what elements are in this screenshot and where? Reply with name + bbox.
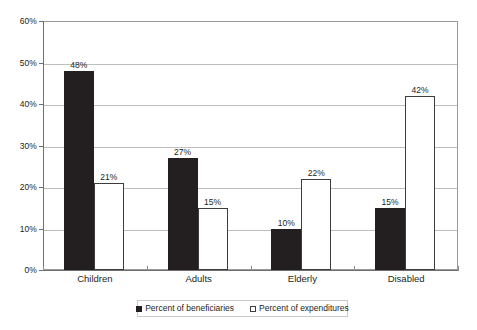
legend-item-expenditures: Percent of expenditures bbox=[250, 304, 349, 313]
legend-label-beneficiaries: Percent of beneficiaries bbox=[145, 304, 234, 313]
x-axis-tick bbox=[458, 266, 459, 271]
gridline bbox=[44, 64, 457, 65]
bar-value-label: 42% bbox=[412, 86, 429, 95]
bar-adults-series-1: 15% bbox=[198, 208, 228, 270]
y-axis-label: 40% bbox=[20, 100, 37, 109]
x-axis-tick bbox=[354, 266, 355, 271]
bar-elderly-series-1: 22% bbox=[301, 179, 331, 270]
gridline bbox=[44, 105, 457, 106]
bar-disabled-series-1: 42% bbox=[405, 96, 435, 270]
legend-item-beneficiaries: Percent of beneficiaries bbox=[136, 304, 234, 313]
bar-value-label: 22% bbox=[308, 169, 325, 178]
x-axis-label-children: Children bbox=[77, 274, 112, 284]
x-axis-label-adults: Adults bbox=[185, 274, 211, 284]
legend-swatch-filled-square-icon bbox=[136, 306, 142, 312]
bar-elderly-series-0: 10% bbox=[271, 229, 301, 271]
gridline bbox=[44, 147, 457, 148]
x-axis-label-disabled: Disabled bbox=[388, 274, 425, 284]
y-axis-label: 20% bbox=[20, 183, 37, 192]
x-axis-label-elderly: Elderly bbox=[288, 274, 317, 284]
y-axis-tick bbox=[39, 229, 43, 230]
bar-children-series-0: 48% bbox=[64, 71, 94, 270]
bar-value-label: 48% bbox=[70, 61, 87, 70]
x-axis-tick bbox=[43, 266, 44, 271]
bar-value-label: 15% bbox=[204, 198, 221, 207]
y-axis-label: 50% bbox=[20, 58, 37, 67]
bar-adults-series-0: 27% bbox=[168, 158, 198, 270]
y-axis-label: 0% bbox=[25, 266, 38, 275]
y-axis-tick bbox=[39, 104, 43, 105]
y-axis-tick bbox=[39, 63, 43, 64]
y-axis-tick bbox=[39, 187, 43, 188]
y-axis-tick bbox=[39, 146, 43, 147]
bar-value-label: 10% bbox=[278, 219, 295, 228]
x-axis-tick bbox=[147, 266, 148, 271]
y-axis-tick bbox=[39, 21, 43, 22]
bar-value-label: 15% bbox=[382, 198, 399, 207]
y-axis-line bbox=[43, 21, 44, 271]
bar-disabled-series-0: 15% bbox=[375, 208, 405, 270]
legend-label-expenditures: Percent of expenditures bbox=[259, 304, 349, 313]
bar-value-label: 27% bbox=[174, 148, 191, 157]
chart-legend: Percent of beneficiaries Percent of expe… bbox=[137, 300, 348, 317]
y-axis-label: 10% bbox=[20, 224, 37, 233]
bar-value-label: 21% bbox=[100, 173, 117, 182]
bar-children-series-1: 21% bbox=[94, 183, 124, 270]
legend-swatch-open-square-icon bbox=[250, 306, 256, 312]
x-axis-tick bbox=[251, 266, 252, 271]
bar-chart: 0%10%20%30%40%50%60% 48%21%27%15%10%22%1… bbox=[0, 0, 477, 330]
y-axis-label: 60% bbox=[20, 17, 37, 26]
y-axis-label: 30% bbox=[20, 141, 37, 150]
